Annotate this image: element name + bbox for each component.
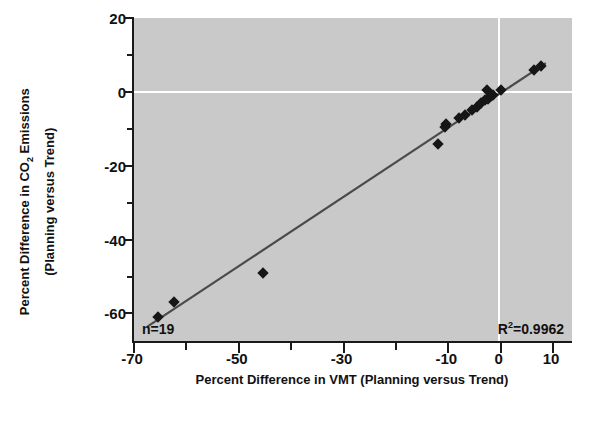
y-axis-tick-labels: 200-20-40-60 <box>78 18 126 343</box>
x-axis-title: Percent Difference in VMT (Planning vers… <box>132 372 572 387</box>
y-tick-label: -60 <box>104 305 126 322</box>
y-axis-title-line1: Percent Difference in CO2 Emissions <box>17 88 32 315</box>
y-axis-title-line2: (Planning versus Trend) <box>40 37 59 367</box>
x-tick-label: -50 <box>226 350 248 367</box>
y-tick-label: -40 <box>104 231 126 248</box>
x-tick-label: -30 <box>331 350 353 367</box>
x-tick-label: -10 <box>435 350 457 367</box>
x-tick-minor <box>185 343 187 350</box>
sample-size-annotation: n=19 <box>142 321 174 337</box>
x-tick-minor <box>290 343 292 350</box>
x-axis-tick-labels: -70-50-30-10010 <box>132 350 572 372</box>
trend-line <box>132 18 572 343</box>
x-tick-label: -70 <box>121 350 143 367</box>
y-axis-title: Percent Difference in CO2 Emissions (Pla… <box>15 37 59 367</box>
x-tick-minor <box>395 343 397 350</box>
x-tick-label: 10 <box>543 350 560 367</box>
y-tick-label: 20 <box>109 10 126 27</box>
y-tick-label: -20 <box>104 157 126 174</box>
plot-area: n=19 R2=0.9962 <box>132 18 572 343</box>
scatter-chart-figure: n=19 R2=0.9962 200-20-40-60 -70-50-30-10… <box>0 0 601 440</box>
y-tick-label: 0 <box>118 83 126 100</box>
x-tick-label: 0 <box>494 350 502 367</box>
r-squared-annotation: R2=0.9962 <box>498 320 564 337</box>
